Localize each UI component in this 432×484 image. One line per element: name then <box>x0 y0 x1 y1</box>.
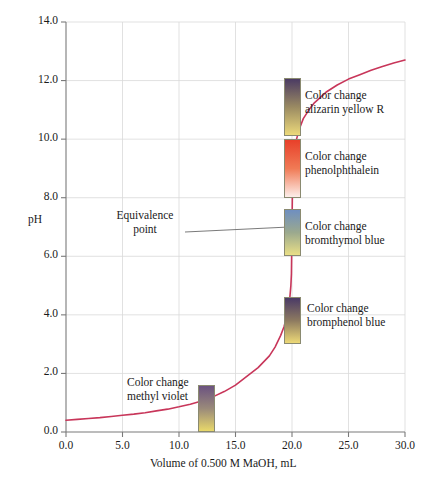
x-axis-tick-label-line-1: 0.0 <box>44 440 88 452</box>
x-axis-title-line-1: Volume of 0.500 M MaOH, mL <box>150 457 296 469</box>
y-axis-tick-label-line-1: 12.0 <box>0 74 58 86</box>
y-axis-tick-label-line-1: 0.0 <box>0 425 58 437</box>
y-axis-tick-label: 0.0 <box>0 425 58 437</box>
indicator-label-bromphenol-blue: Color changebromphenol blue <box>307 301 385 329</box>
x-axis-tick-label: 10.0 <box>157 440 201 452</box>
indicator-label-methyl-violet: Color changemethyl violet <box>127 375 189 403</box>
x-axis-tick-label: 30.0 <box>383 440 427 452</box>
y-axis-tick-label-line-1: 6.0 <box>0 249 58 261</box>
x-axis-tick-label: 20.0 <box>270 440 314 452</box>
indicator-bar-phenolphthalein <box>284 139 301 198</box>
x-axis-tick-label-line-1: 30.0 <box>383 440 427 452</box>
indicator-label-bromthymol-blue: Color changebromthymol blue <box>305 219 385 247</box>
equivalence-point-leader-line <box>185 227 289 232</box>
y-axis-tick-label-line-1: 2.0 <box>0 366 58 378</box>
x-axis-tick-label-line-1: 20.0 <box>270 440 314 452</box>
indicator-bar-bromthymol-blue <box>284 209 301 256</box>
y-axis-tick-label: 4.0 <box>0 308 58 320</box>
x-axis-tick-label-line-1: 10.0 <box>157 440 201 452</box>
indicator-bar-bromphenol-blue <box>284 297 301 344</box>
y-axis-tick-label: 10.0 <box>0 132 58 144</box>
y-axis-tick-label: 12.0 <box>0 74 58 86</box>
titration-curve-figure: 0.02.04.06.08.010.012.014.00.05.010.015.… <box>0 0 432 484</box>
x-axis-tick-label: 0.0 <box>44 440 88 452</box>
indicator-label-bromphenol-blue-line-1: Color change <box>307 301 385 315</box>
indicator-label-methyl-violet-line-1: Color change <box>127 375 189 389</box>
indicator-label-phenolphthalein: Color changephenolphthalein <box>305 149 379 177</box>
y-axis-tick-label-line-1: 4.0 <box>0 308 58 320</box>
y-axis-tick-label: 2.0 <box>0 366 58 378</box>
indicator-label-methyl-violet-line-2: methyl violet <box>127 389 189 403</box>
x-axis-title: Volume of 0.500 M MaOH, mL <box>150 457 296 469</box>
indicator-label-bromthymol-blue-line-2: bromthymol blue <box>305 233 385 247</box>
indicator-label-bromphenol-blue-line-2: bromphenol blue <box>307 315 385 329</box>
x-axis-tick-label: 5.0 <box>101 440 145 452</box>
equivalence-point-label-line-1: Equivalence <box>102 208 188 222</box>
x-axis-tick-label: 25.0 <box>327 440 371 452</box>
x-axis-tick-label-line-1: 5.0 <box>101 440 145 452</box>
y-axis-tick-label-line-1: 8.0 <box>0 191 58 203</box>
indicator-bar-alizarin-yellow-r <box>284 78 301 137</box>
x-axis-tick-label-line-1: 25.0 <box>327 440 371 452</box>
x-axis-tick-label-line-1: 15.0 <box>214 440 258 452</box>
indicator-label-phenolphthalein-line-1: Color change <box>305 149 379 163</box>
y-axis-title-line-1: pH <box>28 213 42 225</box>
indicator-label-alizarin-yellow-r-line-2: alizarin yellow R <box>305 102 384 116</box>
indicator-label-phenolphthalein-line-2: phenolphthalein <box>305 163 379 177</box>
y-axis-tick-label: 6.0 <box>0 249 58 261</box>
indicator-bar-methyl-violet <box>198 385 215 432</box>
y-axis-tick-label-line-1: 10.0 <box>0 132 58 144</box>
indicator-label-alizarin-yellow-r-line-1: Color change <box>305 88 384 102</box>
x-axis-tick-label: 15.0 <box>214 440 258 452</box>
equivalence-point-label: Equivalencepoint <box>102 208 188 236</box>
y-axis-tick-label: 14.0 <box>0 15 58 27</box>
equivalence-point-label-line-2: point <box>102 222 188 236</box>
y-axis-tick-label: 8.0 <box>0 191 58 203</box>
y-axis-title: pH <box>28 213 42 225</box>
indicator-label-bromthymol-blue-line-1: Color change <box>305 219 385 233</box>
y-axis-tick-label-line-1: 14.0 <box>0 15 58 27</box>
indicator-label-alizarin-yellow-r: Color changealizarin yellow R <box>305 88 384 116</box>
